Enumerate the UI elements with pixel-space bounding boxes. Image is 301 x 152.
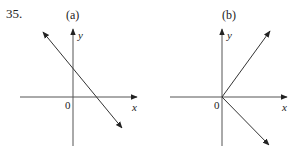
- diagram-canvas: [0, 0, 301, 152]
- panel-b-ray-lower: [222, 97, 269, 145]
- panel-a-line: [43, 32, 122, 128]
- panel-b-ray-upper: [222, 31, 270, 97]
- panel-a-axes: [20, 29, 137, 146]
